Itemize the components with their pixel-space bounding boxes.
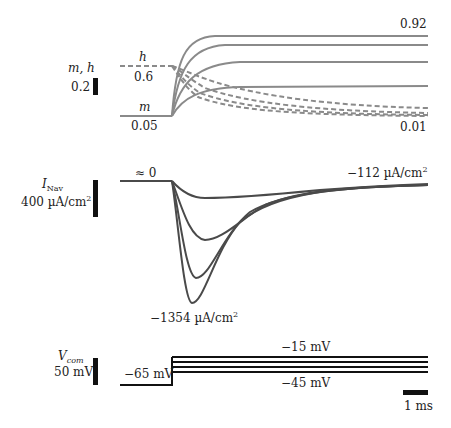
m-init-label: 0.05: [131, 120, 158, 132]
gating-ylabel: m, h: [68, 62, 95, 74]
time-scale-label: 1 ms: [404, 400, 433, 412]
current-ylabel: INav: [42, 178, 63, 193]
m-trace-3: [172, 62, 428, 116]
voltage-ylabel: Vcom: [58, 350, 84, 365]
gating-scale-bar: [93, 78, 98, 95]
current-peak-label: −1354 µA/cm2: [150, 311, 238, 324]
current-steady-label: −112 µA/cm2: [347, 166, 427, 179]
m-max-label: 0.92: [400, 18, 427, 30]
h-init-label: 0.6: [134, 71, 153, 83]
m-label: m: [139, 101, 150, 113]
current-trace-1: [172, 181, 428, 303]
current-panel: [120, 181, 428, 303]
current-scale-label: 400 µA/cm2: [21, 195, 91, 208]
gating-scale-label: 0.2: [71, 81, 90, 93]
current-trace-3: [172, 181, 428, 240]
current-zero-label: ≈ 0: [135, 167, 157, 179]
voltage-scale-bar: [93, 358, 98, 385]
h-label: h: [139, 51, 147, 63]
h-min-label: 0.01: [400, 121, 427, 133]
gating-panel: [120, 36, 428, 116]
voltage-holding-label: −65 mV: [124, 368, 173, 380]
current-scale-bar: [93, 180, 98, 217]
voltage-bottom-step-label: −45 mV: [281, 377, 330, 389]
voltage-top-step-label: −15 mV: [281, 341, 330, 353]
time-scale-bar: [403, 390, 428, 395]
voltage-scale-label: 50 mV: [54, 366, 93, 378]
